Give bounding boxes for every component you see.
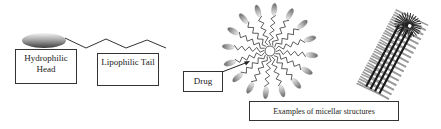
spherical-micelle <box>222 3 318 99</box>
lipophilic-tail-label: Lipophilic Tail <box>97 53 159 86</box>
surfactant-molecule <box>22 33 166 48</box>
lipophilic-tail-zigzag <box>65 38 166 48</box>
cylindrical-micelle <box>357 6 430 100</box>
drug-label: Drug <box>183 71 223 92</box>
hydrophilic-head-label: Hydrophilic Head <box>15 49 77 84</box>
micellar-structures-caption: Examples of micellar structures <box>249 101 399 121</box>
hydrophilic-head-shape <box>22 33 66 48</box>
